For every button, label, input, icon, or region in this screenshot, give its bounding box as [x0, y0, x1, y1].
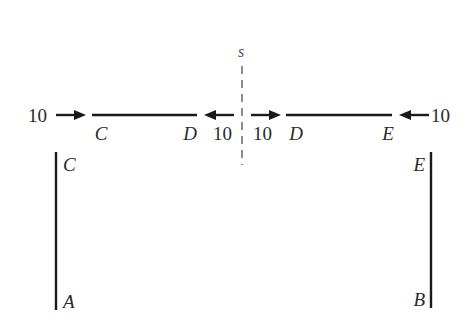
beam-de-end-label: E — [381, 123, 394, 144]
arrow-left-icon — [399, 110, 429, 120]
arrow-right-icon — [56, 110, 86, 120]
force-label-left-outer: 10 — [28, 105, 47, 126]
free-body-diagram: s C D 10 10 D E 10 — [0, 0, 476, 325]
arrow-left-icon — [204, 110, 234, 120]
beam-segment-cd: C D 10 10 — [28, 105, 234, 144]
force-label-right-outer: 10 — [431, 105, 450, 126]
beam-cd-start-label: C — [95, 123, 108, 144]
column-ca: C A — [56, 152, 76, 312]
column-eb-bottom-label: B — [413, 289, 425, 310]
force-label-right-inner: 10 — [253, 123, 272, 144]
beam-cd-end-label: D — [182, 123, 197, 144]
section-label: s — [238, 43, 244, 60]
column-eb: E B — [412, 152, 431, 310]
column-ca-top-label: C — [63, 154, 76, 175]
beam-segment-de: D E 10 10 — [251, 105, 450, 144]
column-ca-bottom-label: A — [61, 291, 75, 312]
column-eb-top-label: E — [412, 154, 425, 175]
beam-de-start-label: D — [288, 123, 303, 144]
force-label-left-inner: 10 — [213, 123, 232, 144]
arrow-right-icon — [251, 110, 281, 120]
